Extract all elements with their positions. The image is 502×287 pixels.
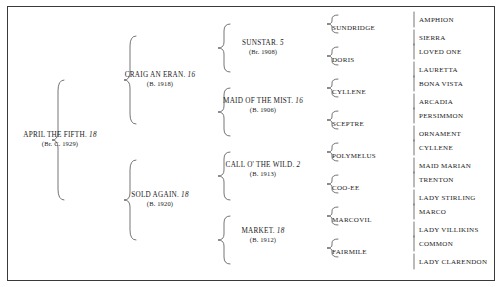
- node-year: (B. 1920): [112, 200, 208, 208]
- node-name: MARKET. 18: [208, 227, 318, 235]
- pedigree-node: COO-EE: [318, 184, 406, 192]
- node-name: CYLLENE: [332, 88, 406, 96]
- node-name: SIERRA: [419, 34, 498, 42]
- pedigree-node: MAID OF THE MIST. 16 (B. 1906): [208, 97, 318, 114]
- node-year: (B. 1912): [208, 236, 318, 244]
- generation-4-column: SUNDRIDGE DORIS CYLLENE SCEPTRE POLYMELU…: [318, 0, 406, 287]
- node-name: SUNDRIDGE: [332, 24, 406, 32]
- pedigree-node: MAID MARIAN: [406, 162, 498, 170]
- pedigree-node: MARKET. 18 (B. 1912): [208, 227, 318, 244]
- node-name: MARCO: [419, 208, 498, 216]
- pedigree-node: CALL O' THE WILD. 2 (B. 1913): [208, 161, 318, 178]
- node-name: SUNSTAR. 5: [208, 39, 318, 47]
- generation-5-column: AMPHION SIERRA LOVED ONE LAURETTA BONA V…: [406, 0, 498, 287]
- pedigree-node: SIERRA: [406, 34, 498, 42]
- node-name: MAID MARIAN: [419, 162, 498, 170]
- pedigree-node: DORIS: [318, 56, 406, 64]
- node-name: LOVED ONE: [419, 48, 498, 56]
- node-name: LADY STIRLING: [419, 194, 498, 202]
- pedigree-node-subject: APRIL THE FIFTH. 18 (Br. C. 1929): [8, 131, 112, 148]
- generation-3-column: SUNSTAR. 5 (Br. 1908) MAID OF THE MIST. …: [208, 0, 318, 287]
- pedigree-node: LOVED ONE: [406, 48, 498, 56]
- node-name: SOLD AGAIN. 18: [112, 191, 208, 199]
- pedigree-node: SUNDRIDGE: [318, 24, 406, 32]
- node-name: POLYMELUS: [332, 152, 406, 160]
- node-name: MAID OF THE MIST. 16: [208, 97, 318, 105]
- pedigree-node: MARCOVIL: [318, 216, 406, 224]
- pedigree-node-sire: CRAIG AN ERAN. 16 (B. 1918): [112, 71, 208, 88]
- pedigree-chart: APRIL THE FIFTH. 18 (Br. C. 1929) CRAIG …: [0, 0, 502, 287]
- node-name: ORNAMENT: [419, 130, 498, 138]
- pedigree-node: LADY CLARENDON: [406, 258, 498, 266]
- node-name: COO-EE: [332, 184, 406, 192]
- pedigree-node: CYLLENE: [406, 144, 498, 152]
- pedigree-node: ORNAMENT: [406, 130, 498, 138]
- pedigree-node: LADY STIRLING: [406, 194, 498, 202]
- node-name: FAIRMILE: [332, 248, 406, 256]
- node-name: LADY VILLIKINS: [419, 226, 498, 234]
- node-name: DORIS: [332, 56, 406, 64]
- node-name: ARCADIA: [419, 98, 498, 106]
- pedigree-node-dam: SOLD AGAIN. 18 (B. 1920): [112, 191, 208, 208]
- pedigree-node: AMPHION: [406, 16, 498, 24]
- pedigree-node: PERSIMMON: [406, 112, 498, 120]
- node-name: CYLLENE: [419, 144, 498, 152]
- node-name: AMPHION: [419, 16, 498, 24]
- node-name: LADY CLARENDON: [419, 258, 498, 266]
- node-name: CALL O' THE WILD. 2: [208, 161, 318, 169]
- pedigree-node: POLYMELUS: [318, 152, 406, 160]
- pedigree-node: MARCO: [406, 208, 498, 216]
- node-name: MARCOVIL: [332, 216, 406, 224]
- pedigree-node: SCEPTRE: [318, 120, 406, 128]
- node-name: PERSIMMON: [419, 112, 498, 120]
- node-name: APRIL THE FIFTH. 18: [8, 131, 112, 139]
- pedigree-node: LADY VILLIKINS: [406, 226, 498, 234]
- node-year: (Br. C. 1929): [8, 140, 112, 148]
- pedigree-node: COMMON: [406, 240, 498, 248]
- pedigree-node: BONA VISTA: [406, 80, 498, 88]
- node-year: (B. 1918): [112, 80, 208, 88]
- node-name: CRAIG AN ERAN. 16: [112, 71, 208, 79]
- pedigree-node: TRENTON: [406, 176, 498, 184]
- pedigree-node: ARCADIA: [406, 98, 498, 106]
- node-year: (B. 1906): [208, 106, 318, 114]
- pedigree-node: SUNSTAR. 5 (Br. 1908): [208, 39, 318, 56]
- pedigree-node: LAURETTA: [406, 66, 498, 74]
- generation-2-column: CRAIG AN ERAN. 16 (B. 1918) SOLD AGAIN. …: [112, 0, 208, 287]
- node-name: SCEPTRE: [332, 120, 406, 128]
- node-year: (B. 1913): [208, 170, 318, 178]
- node-name: LAURETTA: [419, 66, 498, 74]
- node-name: TRENTON: [419, 176, 498, 184]
- pedigree-node: CYLLENE: [318, 88, 406, 96]
- generation-1-column: APRIL THE FIFTH. 18 (Br. C. 1929): [8, 0, 112, 287]
- node-year: (Br. 1908): [208, 48, 318, 56]
- node-name: COMMON: [419, 240, 498, 248]
- node-name: BONA VISTA: [419, 80, 498, 88]
- pedigree-node: FAIRMILE: [318, 248, 406, 256]
